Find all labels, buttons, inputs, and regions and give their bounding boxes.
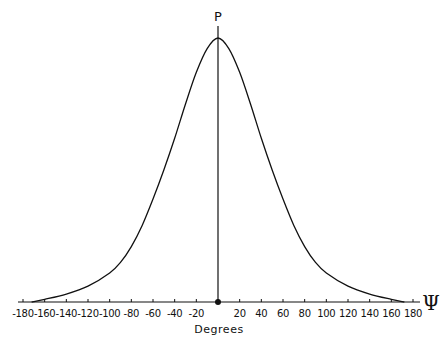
x-tick-label: 60	[277, 308, 289, 319]
x-tick-label: 120	[339, 308, 357, 319]
x-tick-label: -60	[145, 308, 160, 319]
x-tick-label: 140	[361, 308, 379, 319]
peak-label: P	[214, 9, 222, 24]
x-tick-label: -160	[34, 308, 56, 319]
distribution-chart: -180-160-140-120-100-80-60-40-2020406080…	[0, 0, 446, 346]
peak-marker: P	[214, 9, 222, 305]
x-axis: -180-160-140-120-100-80-60-40-2020406080…	[12, 291, 440, 336]
x-tick-label: 180	[404, 308, 422, 319]
x-tick-label: 80	[299, 308, 311, 319]
x-tick-label: 20	[234, 308, 246, 319]
x-tick-label: 100	[317, 308, 335, 319]
origin-dot	[215, 299, 221, 305]
x-tick-label: -100	[99, 308, 121, 319]
x-tick-label: 40	[255, 308, 267, 319]
x-tick-label: 160	[382, 308, 400, 319]
x-tick-label: -80	[124, 308, 139, 319]
psi-axis-symbol: Ψ	[422, 291, 440, 315]
x-tick-label: -120	[77, 308, 99, 319]
x-tick-label: -20	[189, 308, 204, 319]
x-tick-label: -140	[56, 308, 78, 319]
x-axis-title: Degrees	[194, 323, 243, 336]
x-tick-label: -40	[167, 308, 182, 319]
x-tick-label: -180	[12, 308, 34, 319]
x-axis-tick-labels: -180-160-140-120-100-80-60-40-2020406080…	[12, 308, 422, 319]
